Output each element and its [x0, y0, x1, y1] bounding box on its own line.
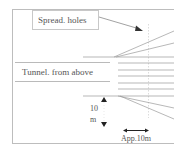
tunnel-diagram: Spread. holes Tunnel. from above: [0, 0, 184, 152]
vertical-dimension-unit: m: [90, 115, 97, 124]
down-arrow-icon: [101, 122, 107, 127]
up-arrow-icon: [101, 97, 107, 102]
horizontal-dimension-label: App.10m: [121, 134, 152, 143]
spread-holes-label: Spread. holes: [38, 15, 87, 25]
spread-holes-label-box: Spread. holes: [33, 11, 99, 30]
horizontal-dimension: App.10m: [121, 129, 152, 144]
vertical-dimension: 10 m: [90, 97, 107, 127]
tunnel-label-box: Tunnel. from above: [14, 62, 110, 82]
tunnel-label: Tunnel. from above: [22, 67, 93, 77]
right-arrow-icon: [145, 129, 149, 133]
left-arrow-icon: [123, 129, 127, 133]
vertical-dimension-value: 10: [90, 104, 98, 113]
pointer-arrow-icon: [99, 17, 143, 31]
